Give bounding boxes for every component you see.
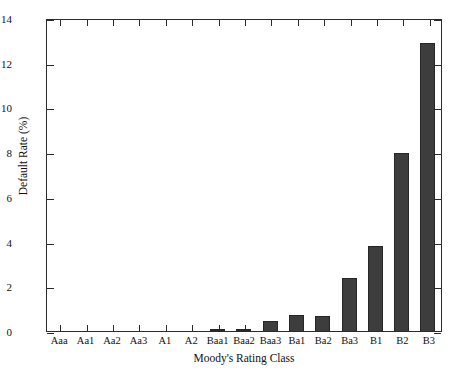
- y-tick-label: 2: [0, 282, 12, 293]
- bar-slot: [257, 20, 283, 331]
- y-axis-title: Default Rate (%): [17, 71, 29, 241]
- y-tick-label: 8: [0, 148, 12, 159]
- y-tick-label: 14: [0, 14, 12, 25]
- bar-slot: [47, 20, 73, 331]
- x-tick-label: A2: [178, 334, 204, 350]
- x-tick-label: A1: [152, 334, 178, 350]
- x-tick-label: Aa1: [72, 334, 98, 350]
- bar-slot: [362, 20, 388, 331]
- bar-series: [47, 20, 441, 331]
- x-tick-label: Baa1: [204, 334, 230, 350]
- x-axis-title: Moody's Rating Class: [46, 352, 442, 364]
- y-tick-label: 4: [0, 237, 12, 248]
- y-tick-label: 10: [0, 103, 12, 114]
- x-tick-label: B1: [363, 334, 389, 350]
- bar-b3: [420, 43, 435, 331]
- x-tick-label: Aa2: [99, 334, 125, 350]
- bar-baa2: [236, 329, 251, 331]
- bar-baa1: [210, 329, 225, 331]
- bar-ba1: [289, 315, 304, 331]
- bar-ba3: [342, 278, 357, 331]
- y-tick-label: 0: [0, 327, 12, 338]
- bar-b1: [368, 246, 383, 331]
- bar-slot: [336, 20, 362, 331]
- bar-baa3: [263, 321, 278, 332]
- chart-figure: 02468101214 AaaAa1Aa2Aa3A1A2Baa1Baa2Baa3…: [0, 0, 463, 387]
- bar-slot: [388, 20, 414, 331]
- x-tick-label: B2: [389, 334, 415, 350]
- bar-slot: [100, 20, 126, 331]
- x-tick-label: Aa3: [125, 334, 151, 350]
- bar-slot: [310, 20, 336, 331]
- bar-slot: [231, 20, 257, 331]
- bar-slot: [73, 20, 99, 331]
- y-tick-label: 6: [0, 192, 12, 203]
- x-tick-label: Baa2: [231, 334, 257, 350]
- bar-slot: [126, 20, 152, 331]
- x-tick-label: Ba1: [284, 334, 310, 350]
- y-tick-label: 12: [0, 58, 12, 69]
- bar-ba2: [315, 316, 330, 331]
- x-axis-tick-labels: AaaAa1Aa2Aa3A1A2Baa1Baa2Baa3Ba1Ba2Ba3B1B…: [46, 334, 442, 350]
- bar-slot: [152, 20, 178, 331]
- x-tick-label: Ba3: [336, 334, 362, 350]
- bar-slot: [205, 20, 231, 331]
- bar-b2: [394, 153, 409, 331]
- x-tick-label: B3: [416, 334, 442, 350]
- plot-area: [46, 19, 442, 332]
- bar-slot: [178, 20, 204, 331]
- x-tick-label: Ba2: [310, 334, 336, 350]
- bar-slot: [283, 20, 309, 331]
- bar-slot: [415, 20, 441, 331]
- x-tick-label: Baa3: [257, 334, 283, 350]
- x-tick-label: Aaa: [46, 334, 72, 350]
